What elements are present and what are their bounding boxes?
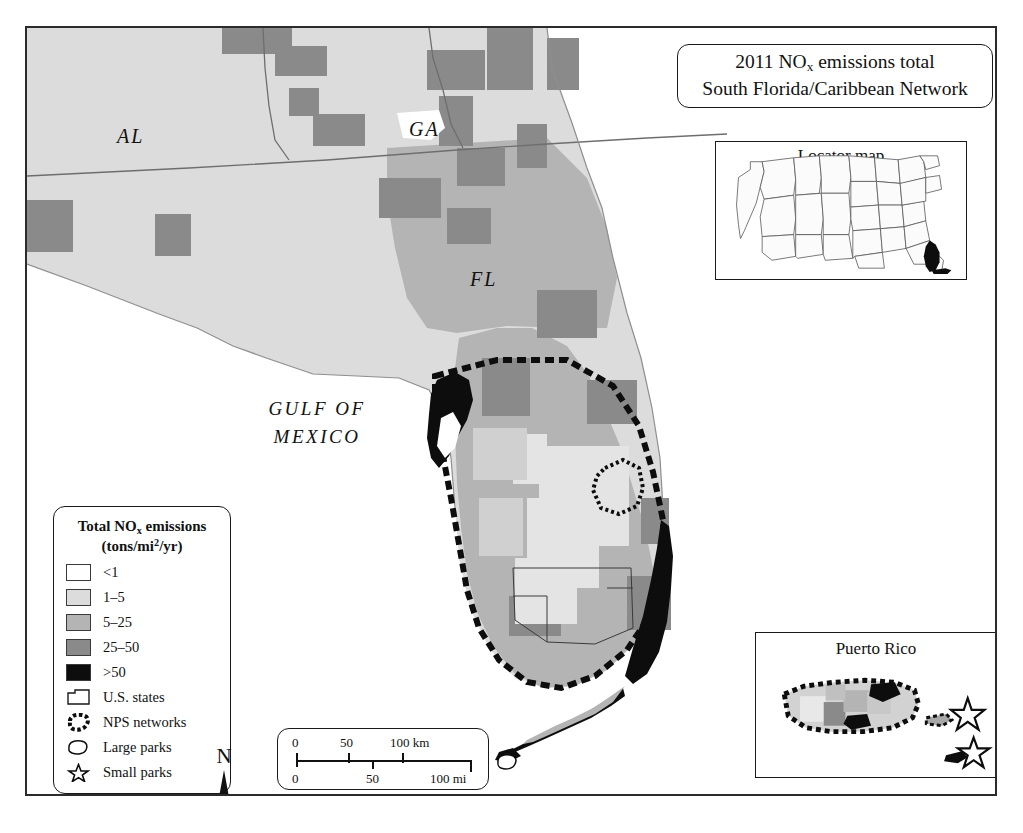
small-parks-icon (66, 763, 91, 782)
legend-item-small-parks[interactable]: Small parks (54, 760, 230, 785)
legend-heading-post: emissions (142, 518, 207, 534)
gulf-line-2: MEXICO (232, 423, 402, 451)
legend-swatch-25-50 (66, 639, 91, 656)
legend-item-25-50[interactable]: 25–50 (54, 635, 230, 660)
legend-swatch-lt1 (66, 564, 91, 581)
legend-label-lt1: <1 (103, 564, 118, 581)
legend-item-1-5[interactable]: 1–5 (54, 585, 230, 610)
scale-tick-km-50 (348, 753, 350, 763)
map-title-box: 2011 NOx emissions total South Florida/C… (677, 44, 993, 108)
legend-item-lt1[interactable]: <1 (54, 560, 230, 585)
scale-mi-100: 100 mi (430, 771, 466, 787)
legend-heading-line1: Total NOx emissions (60, 517, 224, 537)
legend-swatch-5-25 (66, 614, 91, 631)
legend-label-1-5: 1–5 (103, 589, 125, 606)
puerto-rico-graphic (756, 633, 996, 777)
state-label-al: AL (117, 125, 144, 148)
state-label-ga: GA (409, 118, 440, 141)
small-parks-star-1 (951, 698, 985, 730)
legend-units-pre: (tons/mi (102, 538, 155, 554)
legend-item-gt50[interactable]: >50 (54, 660, 230, 685)
legend-label-nps-networks: NPS networks (103, 714, 186, 731)
locator-map-graphic (716, 142, 966, 279)
legend-label-5-25: 5–25 (103, 614, 132, 631)
water-body-label: GULF OF MEXICO (232, 395, 402, 450)
legend-units-post: /yr) (159, 538, 182, 554)
scale-tick-mi-50 (372, 760, 374, 769)
scale-bar-line (296, 760, 472, 762)
map-title-line1: 2011 NOx emissions total (702, 50, 967, 76)
scale-tick-start (296, 753, 298, 767)
legend-item-us-states[interactable]: U.S. states (54, 685, 230, 710)
legend-units: (tons/mi2/yr) (60, 537, 224, 556)
legend-box: Total NOx emissions (tons/mi2/yr) <1 1–5… (53, 506, 231, 794)
scale-tick-km-100 (402, 753, 404, 763)
legend-label-25-50: 25–50 (103, 639, 139, 656)
legend-heading-pre: Total NO (78, 518, 137, 534)
gulf-line-1: GULF OF (232, 395, 402, 423)
legend-item-5-25[interactable]: 5–25 (54, 610, 230, 635)
state-label-fl: FL (470, 268, 497, 291)
scale-km-100: 100 km (390, 735, 429, 751)
puerto-rico-inset: Puerto Rico (755, 632, 997, 778)
map-title-text: 2011 NOx emissions total South Florida/C… (702, 50, 967, 101)
legend-swatch-1-5 (66, 589, 91, 606)
legend-swatch-gt50 (66, 664, 91, 681)
map-figure: AL GA FL GULF OF MEXICO 2011 NOx emissio… (0, 0, 1023, 833)
north-arrow-icon (214, 770, 234, 796)
scale-mi-50: 50 (366, 771, 379, 787)
legend-label-us-states: U.S. states (103, 689, 165, 706)
large-parks-icon (66, 738, 91, 757)
legend-item-nps-networks[interactable]: NPS networks (54, 710, 230, 735)
map-frame: AL GA FL GULF OF MEXICO 2011 NOx emissio… (25, 26, 997, 796)
legend-label-large-parks: Large parks (103, 739, 172, 756)
title-post: emissions total (813, 51, 934, 72)
legend-label-small-parks: Small parks (103, 764, 172, 781)
locator-map-inset: Locator map (715, 141, 967, 280)
large-park-symbol-map (495, 752, 519, 774)
pr-small-island (926, 714, 952, 726)
north-arrow-label: N (207, 744, 241, 769)
us-state-outlines (737, 156, 944, 272)
scale-mi-0: 0 (292, 771, 299, 787)
legend-heading: Total NOx emissions (tons/mi2/yr) (54, 515, 230, 560)
legend-label-gt50: >50 (103, 664, 126, 681)
scale-bar-box: 0 50 100 km 0 50 100 mi (277, 728, 489, 790)
scale-km-0: 0 (292, 735, 299, 751)
scale-tick-mi-100 (470, 760, 472, 772)
title-pre: 2011 NO (735, 51, 806, 72)
north-arrow: N (207, 744, 241, 796)
nps-networks-icon (66, 713, 91, 732)
map-title-line2: South Florida/Caribbean Network (702, 77, 967, 102)
scale-km-50: 50 (340, 735, 353, 751)
us-states-icon (66, 688, 91, 707)
legend-item-large-parks[interactable]: Large parks (54, 735, 230, 760)
